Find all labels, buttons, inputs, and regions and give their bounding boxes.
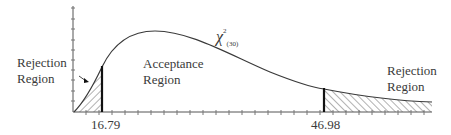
left-rejection-line1: Rejection [17,55,67,71]
right-rejection-line1: Rejection [387,63,437,79]
chi-subscript: (30) [227,40,239,48]
acceptance-line1: Acceptance [143,56,204,72]
right-rejection-line2: Region [387,79,437,95]
y-axis [71,6,75,112]
right-rejection-label: Rejection Region [387,63,437,95]
distribution-label: χ2(30) [216,28,238,48]
arrow-icon [79,76,89,83]
acceptance-line2: Region [143,72,204,88]
chi-square-diagram [0,0,451,135]
chi-symbol: χ [216,28,223,45]
upper-critical-value: 46.98 [311,117,340,133]
left-rejection-area [74,67,102,112]
lower-critical-value: 16.79 [91,117,120,133]
chi-superscript: 2 [223,27,227,35]
acceptance-label: Acceptance Region [143,56,204,88]
left-rejection-line2: Region [17,71,67,87]
left-rejection-label: Rejection Region [17,55,67,87]
